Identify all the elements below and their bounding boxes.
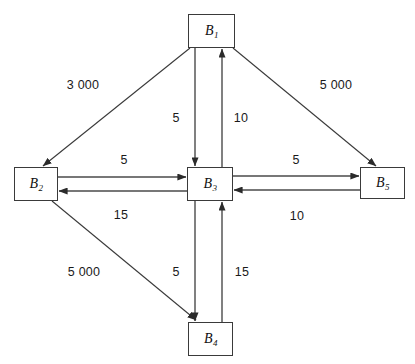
edge-line-b1-b2: [43, 48, 190, 166]
network-diagram: B1 B2 B3 B5 B4 3 000 5 000 5 10 5 15 5 1…: [0, 0, 415, 364]
node-b2-label: B2: [29, 177, 42, 191]
node-b1-label: B1: [205, 24, 218, 38]
edge-label-b1-b5: 5 000: [320, 78, 352, 92]
edge-label-b3-b5: 5: [292, 153, 299, 167]
node-b5-label: B5: [376, 176, 389, 190]
edge-line-b1-b5: [233, 48, 376, 166]
edge-label-b3-b2: 15: [114, 208, 128, 222]
edge-label-b2-b3: 5: [120, 153, 127, 167]
node-b3-label: B3: [203, 177, 216, 191]
edge-label-b3-b4: 5: [172, 265, 179, 279]
edge-label-b2-b4: 5 000: [68, 265, 100, 279]
node-b1[interactable]: B1: [188, 14, 235, 48]
node-b5[interactable]: B5: [360, 167, 405, 199]
node-b4[interactable]: B4: [188, 322, 233, 356]
edge-label-b5-b3: 10: [290, 209, 304, 223]
edge-label-b3-b1: 10: [234, 111, 248, 125]
edge-label-b1-b2: 3 000: [67, 78, 99, 92]
edge-label-b1-b3: 5: [172, 111, 179, 125]
node-b2[interactable]: B2: [14, 167, 58, 201]
edge-label-b4-b3: 15: [235, 265, 249, 279]
node-b3[interactable]: B3: [187, 167, 233, 201]
node-b4-label: B4: [204, 332, 217, 346]
